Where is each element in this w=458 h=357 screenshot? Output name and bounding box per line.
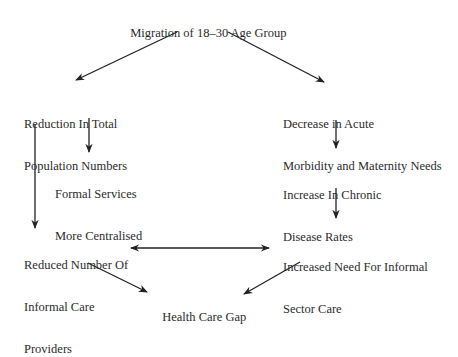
node-reduced-line2: Informal Care [24,300,128,314]
node-gap-label: Health Care Gap [162,310,246,324]
node-health-care-gap: Health Care Gap [156,296,246,324]
node-reduced: Reduced Number Of Informal Care Provider… [24,230,128,357]
node-increased-line2: Sector Care [283,302,428,316]
node-decrease-line1: Decrease in Acute [283,117,442,131]
node-increased-line1: Increased Need For Informal [283,260,428,274]
node-reduction-line1: Reduction In Total [24,117,127,131]
node-chronic-line1: Increase In Chronic [283,188,382,202]
node-migration-label: Migration of 18–30 Age Group [130,26,286,40]
node-formal-line1: Formal Services [55,187,142,201]
node-migration: Migration of 18–30 Age Group [124,12,286,40]
node-increased: Increased Need For Informal Sector Care [283,232,428,330]
node-reduced-line1: Reduced Number Of [24,258,128,272]
node-reduced-line3: Providers [24,342,128,356]
